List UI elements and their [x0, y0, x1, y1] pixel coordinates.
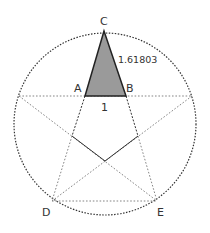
- label-A: A: [74, 82, 82, 95]
- label-base-length: 1: [101, 101, 108, 114]
- segment-B-to-inner-right: [126, 96, 138, 136]
- segment-inner-left-to-bottom: [72, 136, 105, 161]
- pentagram-diagram: C A B 1.61803 1 D E: [0, 0, 210, 233]
- label-C: C: [100, 15, 108, 28]
- line-inner-left-to-D: [52, 136, 72, 201]
- segment-inner-right-to-bottom: [105, 136, 138, 161]
- label-side-length: 1.61803: [118, 54, 157, 65]
- label-D: D: [42, 206, 50, 219]
- label-B: B: [126, 82, 134, 95]
- segment-A-to-inner-left: [72, 96, 85, 136]
- line-inner-right-to-E: [138, 136, 157, 201]
- label-E: E: [157, 206, 164, 219]
